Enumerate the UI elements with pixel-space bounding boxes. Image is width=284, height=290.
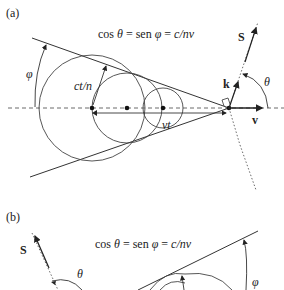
phi-label: φ — [26, 67, 33, 82]
b-s-vector-arrow — [35, 236, 49, 268]
b-phi-angle-arc — [244, 240, 247, 290]
k-vector-arrow — [229, 82, 238, 108]
formula-rhs: c/nv — [174, 27, 194, 41]
panel-b-formula: cos θ = sen φ = c/nv — [95, 237, 191, 252]
circle-center-small — [161, 106, 166, 111]
vt-label: vt — [162, 118, 171, 133]
circle-center-large — [90, 106, 95, 111]
ct-n-label: ct/n — [74, 79, 92, 94]
b-formula-rhs: c/nv — [171, 237, 191, 251]
formula-eq2: = — [161, 27, 174, 41]
b-formula-cos: cos — [95, 237, 114, 251]
panel-a-label: (a) — [6, 6, 19, 21]
panel-a-formula: cos θ = sen φ = c/nv — [98, 27, 194, 42]
v-label: v — [252, 113, 258, 128]
ct-n-radius-arrow — [93, 66, 106, 105]
b-s-label: S — [20, 243, 27, 258]
circle-center-medium — [125, 106, 130, 111]
b-wavefront-circle-small — [160, 282, 185, 290]
panel-b-label: (b) — [6, 210, 20, 225]
wavefront-dotted-line-ext — [240, 145, 256, 190]
s-vector-arrow — [245, 28, 256, 62]
panel-a-geometry — [8, 22, 284, 190]
formula-cos: cos — [98, 27, 117, 41]
b-theta-label: θ — [77, 267, 83, 282]
k-label: k — [223, 77, 230, 92]
formula-eq1: = sen — [123, 27, 155, 41]
b-phi-label: φ — [252, 275, 259, 290]
b-formula-eq2: = — [158, 237, 171, 251]
s-label: S — [238, 30, 245, 45]
theta-label: θ — [264, 75, 270, 90]
right-angle-mark — [222, 98, 230, 106]
b-formula-eq1: = sen — [120, 237, 152, 251]
wavefront-dotted-line — [229, 108, 240, 145]
